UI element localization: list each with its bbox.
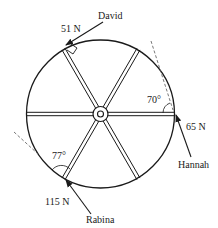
rabina-tangent-dashed — [14, 132, 38, 154]
david-name-label: David — [98, 10, 122, 21]
hannah-name-label: Hannah — [178, 159, 209, 170]
david-force-label: 51 N — [61, 23, 81, 34]
rabina-force-label: 115 N — [45, 196, 69, 207]
wheel-force-diagram: 51 N David 70° 65 N Hannah 77° 115 N Rab… — [0, 0, 218, 228]
rabina-name-label: Rabina — [86, 214, 115, 225]
hannah-angle-arc — [163, 103, 170, 113]
hannah-force-label: 65 N — [186, 121, 206, 132]
rabina-angle-label: 77° — [52, 150, 66, 161]
hannah-angle-label: 70° — [147, 94, 161, 105]
hub-inner — [98, 111, 104, 117]
